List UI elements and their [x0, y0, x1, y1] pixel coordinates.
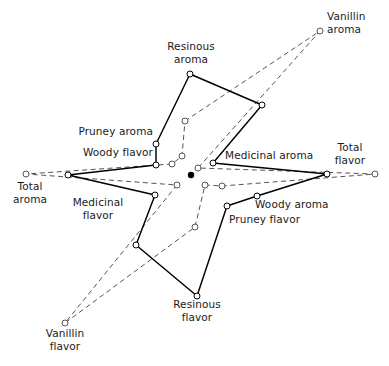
data-point-marker [153, 141, 159, 147]
axis-label-total-aroma-line1: Total [5, 180, 55, 193]
radar-chart: Resinous aroma Vanillin aroma Pruney aro… [0, 0, 389, 366]
data-point-marker [210, 160, 216, 166]
axis-label-medicinal-flavor-line1: Medicinal [62, 196, 134, 209]
chart-center-dot [188, 172, 194, 178]
data-point-marker [195, 165, 201, 171]
axis-label-total-flavor-line2: flavor [326, 154, 374, 167]
series-solid [68, 74, 327, 296]
data-point-marker [182, 118, 188, 124]
data-point-marker [219, 183, 225, 189]
data-point-marker [372, 171, 378, 177]
data-point-marker [324, 171, 330, 177]
axis-label-woody-aroma-text: Woody aroma [255, 198, 345, 211]
axis-label-woody-flavor: Woody flavor [73, 146, 153, 159]
data-point-marker [224, 203, 230, 209]
axis-label-resinous-aroma: Resinous aroma [155, 40, 227, 65]
data-point-marker [179, 153, 185, 159]
axis-label-pruney-aroma-text: Pruney aroma [75, 125, 153, 138]
axis-label-vanillin-flavor-line2: flavor [30, 340, 100, 353]
axis-label-vanillin-aroma-line1: Vanillin [327, 10, 387, 23]
data-point-marker [23, 171, 29, 177]
data-point-marker [152, 192, 158, 198]
data-point-marker [187, 71, 193, 77]
data-point-marker [153, 162, 159, 168]
axis-label-resinous-flavor: Resinous flavor [161, 298, 233, 323]
axis-label-resinous-flavor-line1: Resinous [161, 298, 233, 311]
data-point-marker [174, 182, 180, 188]
axis-label-pruney-aroma: Pruney aroma [75, 125, 153, 138]
axis-label-medicinal-flavor-line2: flavor [62, 209, 134, 222]
axis-label-pruney-flavor: Pruney flavor [229, 213, 319, 226]
axis-label-resinous-flavor-line2: flavor [161, 311, 233, 324]
axis-label-woody-aroma: Woody aroma [255, 198, 345, 211]
axis-label-medicinal-aroma-text: Medicinal aroma [225, 149, 325, 162]
axis-label-resinous-aroma-line2: aroma [155, 53, 227, 66]
center-dot [188, 172, 194, 178]
axis-label-medicinal-aroma: Medicinal aroma [225, 149, 325, 162]
data-point-marker [62, 320, 68, 326]
axis-label-resinous-aroma-line1: Resinous [155, 40, 227, 53]
data-point-marker [65, 172, 71, 178]
axis-label-medicinal-flavor: Medicinal flavor [62, 196, 134, 221]
data-point-marker [192, 224, 198, 230]
axis-label-vanillin-flavor: Vanillin flavor [30, 327, 100, 352]
axis-label-total-flavor: Total flavor [326, 141, 374, 166]
axis-label-vanillin-aroma: Vanillin aroma [327, 10, 387, 35]
data-point-marker [133, 242, 139, 248]
data-point-marker [317, 28, 323, 34]
axis-label-vanillin-aroma-line2: aroma [327, 23, 387, 36]
axis-label-pruney-flavor-text: Pruney flavor [229, 213, 319, 226]
axis-label-total-flavor-line1: Total [326, 141, 374, 154]
data-point-marker [202, 182, 208, 188]
axis-label-total-aroma: Total aroma [5, 180, 55, 205]
data-point-marker [169, 161, 175, 167]
axis-label-vanillin-flavor-line1: Vanillin [30, 327, 100, 340]
series-path-solid [68, 74, 327, 296]
axis-label-total-aroma-line2: aroma [5, 193, 55, 206]
data-point-marker [259, 102, 265, 108]
axis-label-woody-flavor-text: Woody flavor [73, 146, 153, 159]
